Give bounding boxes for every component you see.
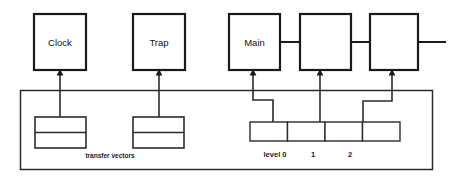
node-second-rect	[300, 14, 351, 70]
level-label-1: 1	[311, 150, 315, 159]
node-clock-label: Clock	[48, 37, 72, 48]
node-trap-label: Trap	[149, 37, 168, 48]
system-architecture-diagram: Clock Trap Main	[0, 0, 458, 180]
node-third-rect	[370, 14, 418, 70]
node-clock[interactable]: Clock	[34, 14, 86, 70]
transfer-vector-box-2[interactable]	[133, 117, 184, 148]
level-bar	[250, 122, 400, 141]
diagram-canvas: Clock Trap Main	[0, 0, 458, 180]
node-main[interactable]: Main	[229, 14, 280, 70]
transfer-vectors-caption: transfer vectors	[85, 152, 135, 159]
node-main-label: Main	[244, 37, 265, 48]
level-cell-2[interactable]	[325, 122, 363, 141]
level-cell-0[interactable]	[250, 122, 288, 141]
level-cell-1[interactable]	[288, 122, 326, 141]
node-trap[interactable]: Trap	[133, 14, 185, 70]
transfer-vector-box-1[interactable]	[35, 117, 86, 148]
level-cell-3[interactable]	[363, 122, 401, 141]
node-third[interactable]	[370, 14, 418, 70]
level-label-0: level 0	[264, 150, 287, 159]
node-second[interactable]	[300, 14, 351, 70]
level-label-2: 2	[348, 150, 352, 159]
